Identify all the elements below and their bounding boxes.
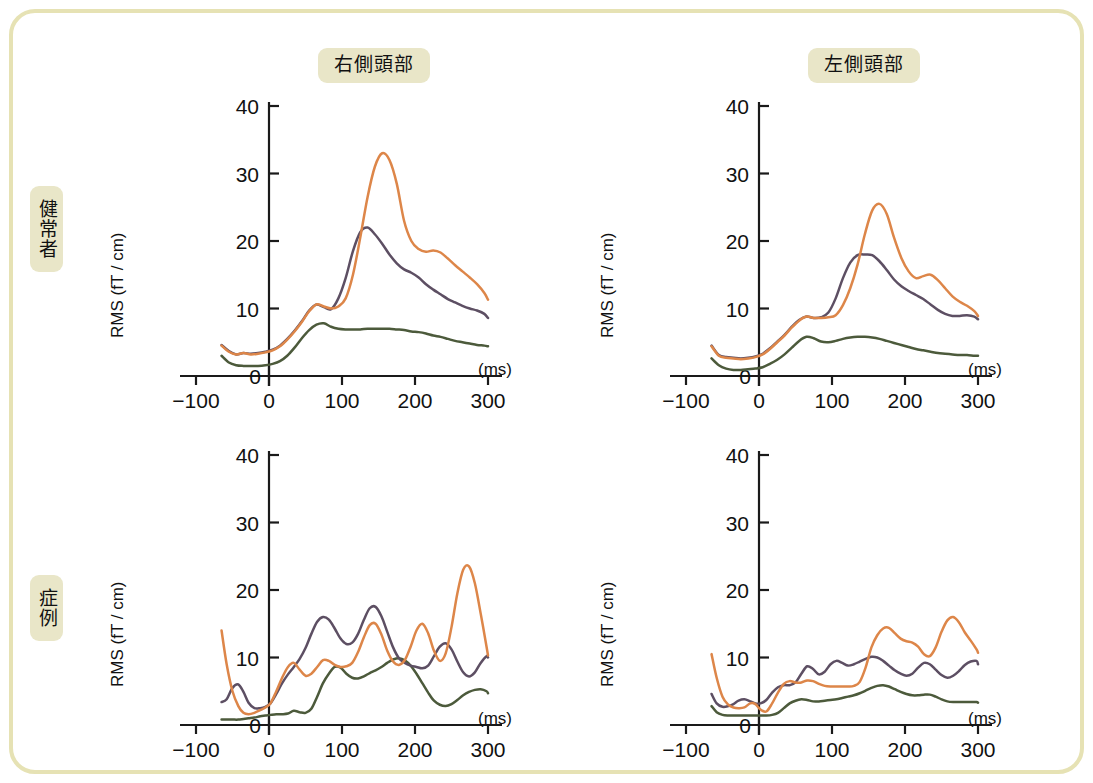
x-axis-unit: (ms) xyxy=(968,709,1002,729)
y-axis-label: RMS (fT / cm) xyxy=(108,233,128,338)
row-label-case: 症例 xyxy=(30,575,63,641)
plot-area: −1000100200300010203040 xyxy=(80,88,510,418)
y-axis-label: RMS (fT / cm) xyxy=(598,233,618,338)
x-axis-unit: (ms) xyxy=(478,709,512,729)
x-tick-label: 100 xyxy=(324,389,359,412)
y-tick-label: 30 xyxy=(726,163,749,186)
y-tick-label: 20 xyxy=(726,579,749,602)
panel-case-right-temporal: RMS (fT / cm) (ms) −10001002003000102030… xyxy=(80,437,510,767)
x-tick-label: 0 xyxy=(263,389,275,412)
plot-area: −1000100200300010203040 xyxy=(570,88,1000,418)
x-tick-label: 300 xyxy=(960,389,995,412)
column-label-right-temporal: 右側頭部 xyxy=(318,48,430,83)
x-tick-label: 300 xyxy=(960,738,995,761)
y-tick-label: 40 xyxy=(236,95,259,118)
x-tick-label: 0 xyxy=(753,738,765,761)
y-tick-label: 30 xyxy=(726,512,749,535)
column-label-left-temporal: 左側頭部 xyxy=(808,48,920,83)
y-tick-label: 40 xyxy=(726,444,749,467)
trace-orange xyxy=(712,204,978,359)
x-tick-label: −100 xyxy=(172,738,219,761)
plot-area: −1000100200300010203040 xyxy=(570,437,1000,767)
x-tick-label: −100 xyxy=(662,738,709,761)
y-tick-label: 40 xyxy=(726,95,749,118)
y-axis-label: RMS (fT / cm) xyxy=(108,582,128,687)
x-tick-label: 100 xyxy=(814,738,849,761)
x-tick-label: 300 xyxy=(470,389,505,412)
x-tick-label: 0 xyxy=(753,389,765,412)
y-tick-label: 20 xyxy=(726,230,749,253)
x-axis-unit: (ms) xyxy=(478,360,512,380)
y-tick-label: 10 xyxy=(236,298,259,321)
x-tick-label: 300 xyxy=(470,738,505,761)
x-axis-unit: (ms) xyxy=(968,360,1002,380)
y-tick-label: 40 xyxy=(236,444,259,467)
y-tick-label: 20 xyxy=(236,230,259,253)
trace-green xyxy=(222,323,488,366)
panel-healthy-left-temporal: RMS (fT / cm) (ms) −10001002003000102030… xyxy=(570,88,1000,418)
plot-area: −1000100200300010203040 xyxy=(80,437,510,767)
y-tick-label: 10 xyxy=(726,647,749,670)
x-tick-label: 200 xyxy=(887,738,922,761)
trace-green xyxy=(712,337,978,370)
figure-root: 右側頭部 左側頭部 健常者 症例 RMS (fT / cm) (ms) −100… xyxy=(0,0,1093,783)
row-label-healthy: 健常者 xyxy=(30,186,63,272)
trace-orange xyxy=(222,153,488,354)
y-tick-label: 10 xyxy=(236,647,259,670)
x-tick-label: 100 xyxy=(814,389,849,412)
panel-healthy-right-temporal: RMS (fT / cm) (ms) −10001002003000102030… xyxy=(80,88,510,418)
y-tick-label: 20 xyxy=(236,579,259,602)
y-axis-label: RMS (fT / cm) xyxy=(598,582,618,687)
x-tick-label: 0 xyxy=(263,738,275,761)
x-tick-label: −100 xyxy=(172,389,219,412)
y-tick-label: 10 xyxy=(726,298,749,321)
trace-green xyxy=(712,685,978,715)
trace-purple xyxy=(712,657,978,707)
x-tick-label: 200 xyxy=(397,389,432,412)
x-tick-label: 100 xyxy=(324,738,359,761)
y-tick-label: 0 xyxy=(739,714,751,737)
x-tick-label: −100 xyxy=(662,389,709,412)
y-tick-label: 0 xyxy=(249,365,261,388)
y-tick-label: 30 xyxy=(236,163,259,186)
y-tick-label: 30 xyxy=(236,512,259,535)
x-tick-label: 200 xyxy=(887,389,922,412)
trace-purple xyxy=(222,227,488,354)
trace-purple xyxy=(712,254,978,358)
x-tick-label: 200 xyxy=(397,738,432,761)
panel-case-left-temporal: RMS (fT / cm) (ms) −10001002003000102030… xyxy=(570,437,1000,767)
